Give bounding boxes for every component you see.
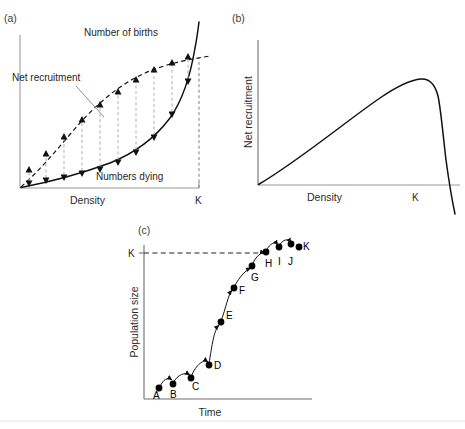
figure-background [0, 0, 465, 429]
panel-b-label: (b) [232, 12, 245, 24]
data-point-i [276, 244, 283, 251]
panel-a-net-recruitment-label: Net recruitment [12, 72, 81, 83]
panel-b-k-label: K [412, 192, 419, 203]
data-point-f [231, 285, 238, 292]
point-label-c: C [192, 381, 199, 392]
point-label-b: B [170, 389, 177, 400]
panel-a-dying-label: Numbers dying [96, 171, 163, 182]
data-point-g [249, 263, 256, 270]
panel-c-x-axis-title: Time [199, 406, 222, 418]
panel-a-x-axis-title: Density [70, 194, 106, 206]
figure-svg: (a) [0, 0, 465, 429]
panel-c-k-label: K [128, 248, 135, 259]
data-point-d [206, 362, 213, 369]
point-label-i: I [278, 256, 281, 267]
panel-c-label: (c) [138, 224, 150, 236]
point-label-e: E [226, 310, 233, 321]
figure-container: (a) [0, 0, 465, 429]
point-label-j: J [288, 256, 293, 267]
point-label-a: A [153, 390, 160, 401]
data-point-h [263, 249, 270, 256]
data-point-j [288, 241, 295, 248]
data-point-b [170, 381, 177, 388]
panel-b-x-axis-title: Density [307, 191, 343, 203]
data-point-e [218, 319, 225, 326]
point-label-k: K [303, 241, 310, 252]
panel-a-label: (a) [4, 12, 17, 24]
point-label-g: G [251, 272, 259, 283]
panel-b-y-axis-title: Net recruitment [242, 76, 254, 148]
panel-a-births-label: Number of births [84, 27, 158, 38]
panel-c-y-axis-title: Population size [128, 286, 140, 357]
data-point-k [296, 244, 303, 251]
point-label-d: D [214, 360, 221, 371]
point-label-f: F [239, 285, 245, 296]
panel-a-k-label: K [195, 195, 202, 206]
point-label-h: H [265, 258, 272, 269]
